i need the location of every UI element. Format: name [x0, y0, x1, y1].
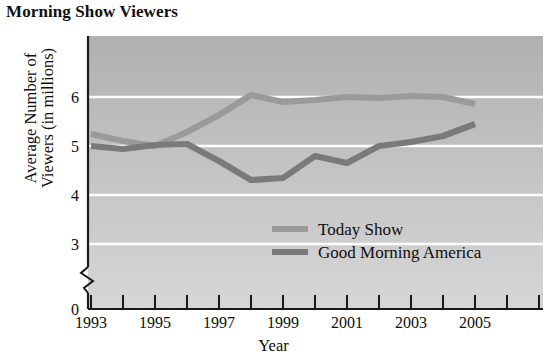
x-tick-label-1997: 1997: [203, 314, 235, 331]
x-tick-label-1993: 1993: [75, 314, 107, 331]
legend-label-good-morning-america: Good Morning America: [318, 243, 482, 262]
legend-label-today-show: Today Show: [318, 220, 404, 239]
y-tick-label-0: 0: [71, 301, 79, 318]
x-tick-label-2003: 2003: [395, 314, 427, 331]
x-tick-label-2001: 2001: [331, 314, 363, 331]
y-tick-label-6: 6: [71, 89, 79, 106]
plot-area: Today Show Good Morning America: [0, 0, 547, 354]
x-tick-label-1999: 1999: [267, 314, 299, 331]
y-axis-tick-labels: 6 5 4 3 0: [71, 89, 79, 318]
y-tick-label-5: 5: [71, 138, 79, 155]
x-tick-label-2005: 2005: [459, 314, 491, 331]
y-tick-label-3: 3: [71, 236, 79, 253]
x-axis-tick-labels: 1993 1995 1997 1999 2001 2003 2005: [75, 314, 491, 331]
morning-show-viewers-chart: Morning Show Viewers Average Number of V…: [0, 0, 547, 354]
x-tick-label-1995: 1995: [139, 314, 171, 331]
plot-background: [88, 36, 543, 308]
y-tick-label-4: 4: [71, 187, 79, 204]
